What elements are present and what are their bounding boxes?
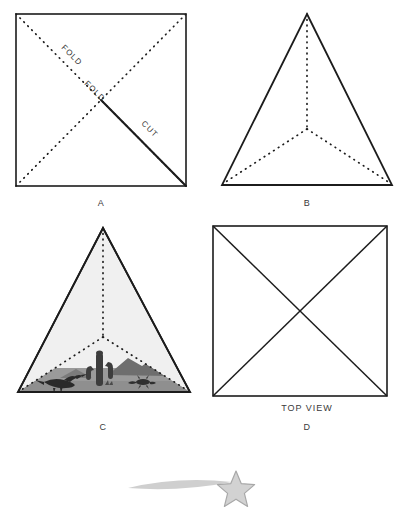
page-background [0, 0, 404, 517]
panel-a-label: A [98, 198, 105, 208]
panel-d-label: D [304, 422, 311, 432]
panel-c-label: C [100, 422, 107, 432]
panel-b-label: B [304, 198, 311, 208]
diagram-canvas: FOLD FOLD CUT A B [0, 0, 404, 517]
panel-d-top-view-caption: TOP VIEW [281, 403, 333, 413]
